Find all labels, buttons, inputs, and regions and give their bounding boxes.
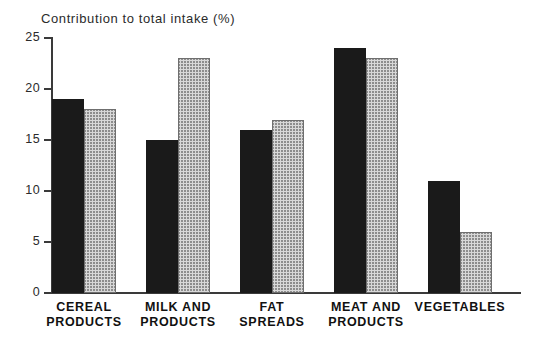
bar-solid-3 [334, 48, 366, 293]
y-tick-mark [44, 88, 52, 89]
bar-chart: Contribution to total intake (%) 0510152… [0, 0, 548, 351]
category-label-4: VEGETABLES [400, 300, 520, 315]
category-label-line1: MEAT AND [331, 300, 401, 314]
bar-hatched-1 [178, 58, 210, 293]
y-tick-label: 15 [0, 132, 40, 146]
y-tick-mark [44, 292, 52, 293]
bar-hatched-4 [460, 232, 492, 293]
category-label-line1: MILK AND [145, 300, 211, 314]
y-tick-label: 25 [0, 30, 40, 44]
y-tick-mark [44, 241, 52, 242]
category-label-line1: VEGETABLES [415, 300, 506, 314]
bar-hatched-0 [84, 109, 116, 293]
category-label-line2: PRODUCTS [306, 315, 426, 330]
y-tick-mark [44, 190, 52, 191]
y-tick-mark [44, 139, 52, 140]
bar-solid-2 [240, 130, 272, 293]
bar-solid-0 [52, 99, 84, 293]
bar-hatched-3 [366, 58, 398, 293]
bar-solid-1 [146, 140, 178, 293]
chart-title: Contribution to total intake (%) [41, 11, 235, 26]
y-tick-label: 5 [0, 234, 40, 248]
y-tick-label: 20 [0, 81, 40, 95]
category-label-line1: FAT [260, 300, 285, 314]
bar-hatched-2 [272, 120, 304, 293]
y-tick-label: 10 [0, 183, 40, 197]
y-tick-label: 0 [0, 285, 40, 299]
category-label-line1: CEREAL [56, 300, 112, 314]
y-tick-mark [44, 37, 52, 38]
bar-solid-4 [428, 181, 460, 293]
